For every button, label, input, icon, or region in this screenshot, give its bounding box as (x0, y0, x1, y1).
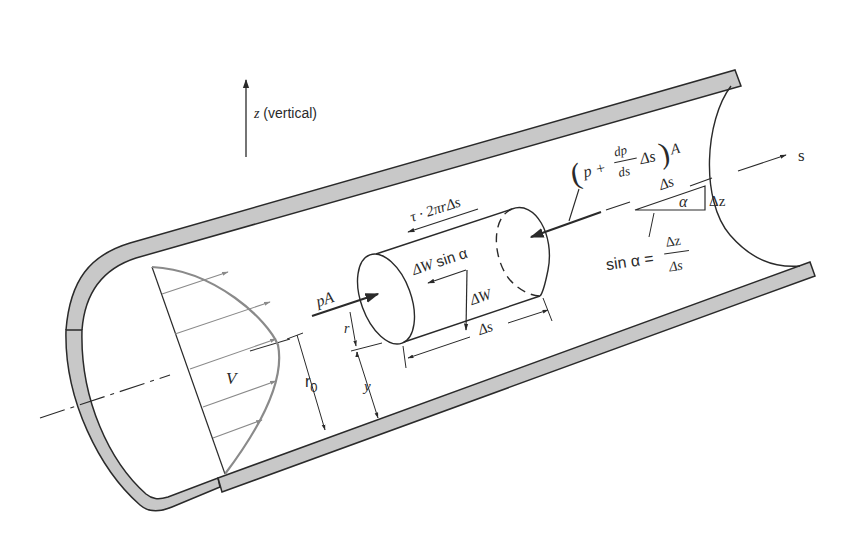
shear-force-label: τ · 2πrΔs (408, 193, 463, 224)
weight-label: ΔW (467, 286, 495, 309)
triangle-angle-label: α (679, 193, 688, 210)
pa-force-label: pA (313, 288, 337, 311)
centerline (40, 155, 786, 418)
leader-line (649, 213, 654, 237)
svg-text:p +: p + (581, 159, 608, 182)
svg-text:dp: dp (612, 142, 628, 159)
slope-triangle (635, 186, 705, 237)
triangle-hyp-label: Δs (656, 173, 676, 193)
left-pipe-end (66, 330, 220, 511)
svg-text:A: A (668, 140, 682, 158)
weight-component-label: ΔWsin α (409, 244, 470, 278)
s-axis-label: s (798, 146, 805, 165)
weight-arrows (428, 270, 467, 330)
radius-dimensions (287, 312, 382, 430)
pipe-radius-label: r0 (305, 373, 318, 395)
right-pipe-end (709, 86, 800, 266)
element-length-label: Δs (475, 318, 495, 338)
svg-text:Δs: Δs (637, 147, 657, 167)
element-radius-label: r (344, 321, 350, 336)
y-distance-label: y (362, 378, 371, 394)
triangle-rise-label: Δz (709, 193, 726, 209)
fluid-element-cylinder (346, 208, 549, 352)
svg-text:ds: ds (617, 163, 631, 180)
sine-relation: sin α = Δz Δs (603, 232, 692, 283)
svg-text:Δz: Δz (664, 233, 681, 250)
diagram-canvas: s V z (vertical) pA ( p + dp ds Δs ) (0, 0, 847, 539)
svg-text:(: ( (567, 156, 584, 191)
svg-text:sin α =: sin α = (605, 250, 655, 274)
velocity-profile (152, 267, 279, 474)
pipe-flow-diagram: s V z (vertical) pA ( p + dp ds Δs ) (0, 0, 847, 539)
upper-pipe-wall (66, 70, 741, 330)
leader-line (569, 189, 579, 221)
element-length-dimension (403, 298, 552, 368)
z-axis-label: z (vertical) (253, 105, 317, 121)
svg-text:Δs: Δs (667, 258, 684, 275)
velocity-label: V (226, 369, 239, 388)
